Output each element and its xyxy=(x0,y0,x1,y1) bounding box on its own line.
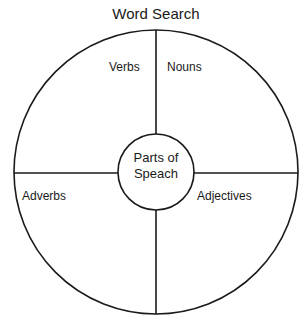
center-label: Parts of Speach xyxy=(118,150,194,182)
quadrant-label-adverbs: Adverbs xyxy=(22,189,66,203)
quadrant-label-verbs: Verbs xyxy=(109,60,140,74)
quadrant-label-adjectives: Adjectives xyxy=(197,189,252,203)
quadrant-label-nouns: Nouns xyxy=(167,60,202,74)
center-label-line2: Speach xyxy=(118,166,194,182)
center-label-line1: Parts of xyxy=(118,150,194,166)
